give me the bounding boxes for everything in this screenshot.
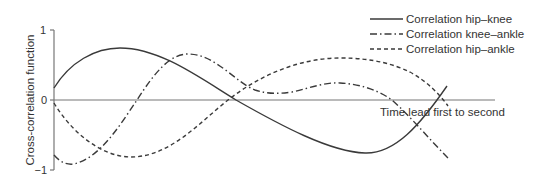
y-tick-minus-1: −1 — [34, 164, 47, 176]
legend: Correlation hip–knee Correlation knee–an… — [370, 13, 524, 55]
legend-label: Correlation hip–ankle — [406, 43, 515, 55]
legend-label: Correlation knee–ankle — [406, 28, 524, 40]
legend-item-hip-ankle: Correlation hip–ankle — [370, 43, 515, 55]
cross-correlation-chart: 1 0 −1 Cross-correlation function Time l… — [0, 0, 544, 196]
legend-item-hip-knee: Correlation hip–knee — [370, 13, 512, 25]
legend-label: Correlation hip–knee — [406, 13, 512, 25]
legend-item-knee-ankle: Correlation knee–ankle — [370, 28, 524, 40]
y-axis: 1 0 −1 Cross-correlation function — [24, 24, 54, 176]
x-axis: Time lead first to second — [54, 100, 505, 118]
x-axis-title: Time lead first to second — [380, 106, 505, 118]
y-tick-1: 1 — [40, 24, 46, 36]
y-tick-0: 0 — [41, 94, 47, 106]
y-axis-title: Cross-correlation function — [24, 34, 36, 165]
